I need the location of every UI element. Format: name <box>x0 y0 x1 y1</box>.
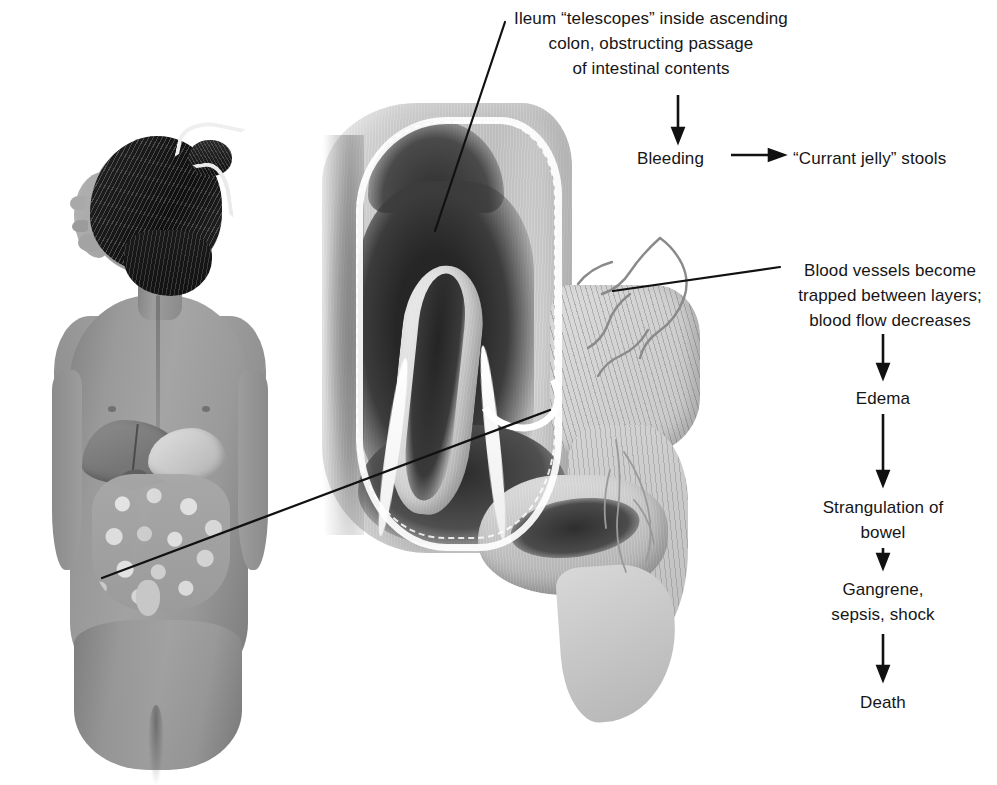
right-arm <box>238 370 268 570</box>
label-gangrene: Gangrene, sepsis, shock <box>796 577 970 627</box>
arrowhead-edema-to-strangulation <box>878 471 889 485</box>
arrowhead-vessels-to-edema <box>878 364 889 378</box>
leg-gap <box>148 705 164 785</box>
rectum <box>136 580 160 616</box>
abdominal-organs <box>82 412 238 624</box>
label-ileum-telescopes: Ileum “telescopes” inside ascending colo… <box>505 6 797 81</box>
bowel-tail <box>555 561 682 725</box>
label-currant-jelly-stools: “Currant jelly” stools <box>793 146 946 171</box>
label-edema: Edema <box>846 386 920 411</box>
serosa-layer <box>356 121 556 539</box>
arrowhead-strangulation-to-gangrene <box>878 554 889 568</box>
label-strangulation: Strangulation of bowel <box>796 495 970 545</box>
nose <box>70 196 86 210</box>
small-intestine <box>92 474 230 610</box>
label-blood-vessels: Blood vessels become trapped between lay… <box>783 258 997 333</box>
bowel-illustration <box>300 95 700 655</box>
lips <box>72 220 88 232</box>
child-illustration <box>30 120 290 710</box>
label-death: Death <box>846 690 920 715</box>
arrowhead-gangrene-to-death <box>878 666 889 680</box>
left-arm <box>52 370 82 570</box>
arrowhead-bleeding-to-currant <box>769 150 784 161</box>
label-bleeding: Bleeding <box>637 146 704 171</box>
